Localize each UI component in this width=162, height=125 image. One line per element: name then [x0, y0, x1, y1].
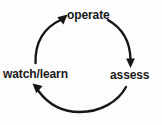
edge-assess-to-watch-learn: [39, 87, 127, 112]
edge-operate-to-assess: [108, 20, 131, 59]
cycle-diagram: operate assess watch/learn: [0, 0, 162, 125]
node-label-assess: assess: [110, 69, 149, 82]
edge-watch-learn-to-operate: [35, 20, 61, 64]
arrowhead-upright-into-operate: [57, 15, 67, 25]
node-label-watch-learn: watch/learn: [3, 68, 68, 81]
node-label-operate: operate: [67, 9, 110, 22]
arrowhead-upleft-into-watch-learn: [33, 84, 43, 94]
arrowhead-down-into-assess: [126, 59, 135, 69]
